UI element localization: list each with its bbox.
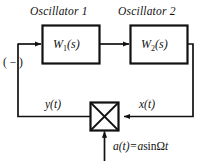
signal-label-y: y(t) — [45, 99, 61, 111]
modulation-time-var: t — [165, 140, 168, 152]
modulation-equation: a(t)=asinΩt — [113, 141, 168, 153]
signal-label-x: x(t) — [139, 99, 155, 111]
modulation-lhs: a(t)= — [113, 140, 137, 152]
oscillator-1-transfer-function: W1(s) — [53, 38, 80, 53]
diagram-line-layer — [0, 0, 201, 161]
w1-argument: (s) — [67, 37, 80, 51]
w1-symbol: W — [53, 37, 63, 51]
oscillator-1-caption: Oscillator 1 — [30, 6, 88, 18]
modulation-omega: Ω — [157, 140, 166, 152]
negative-feedback-sign: ( − ) — [3, 57, 23, 69]
oscillator-2-transfer-function: W2(s) — [141, 38, 168, 53]
block-diagram-figure: Oscillator 1 Oscillator 2 W1(s) W2(s) ( … — [0, 0, 201, 161]
w2-argument: (s) — [155, 37, 168, 51]
w2-symbol: W — [141, 37, 151, 51]
oscillator-2-caption: Oscillator 2 — [118, 6, 176, 18]
modulation-sin: sin — [143, 140, 156, 152]
